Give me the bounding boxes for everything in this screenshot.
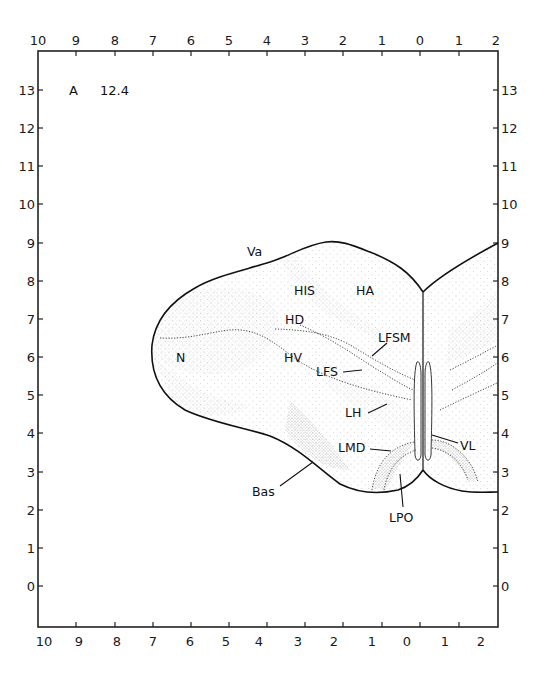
region-label-hv: HV [284,350,302,365]
brain-section: Va HIS HA HD HV N LFSM LFS LH LMD VL Bas… [140,230,500,525]
right-tick-label: 4 [501,426,509,441]
bottom-tick-label: 5 [222,634,230,649]
left-tick-label: 9 [27,236,35,251]
left-tick-label: 0 [27,579,35,594]
region-label-lh: LH [345,405,361,420]
right-tick-label: 3 [501,465,509,480]
bottom-tick-label: 9 [75,634,83,649]
bottom-tick-label: 0 [403,634,411,649]
right-tick-label: 10 [501,197,518,212]
bottom-tick-label: 4 [255,634,263,649]
region-label-lfs: LFS [316,364,338,379]
region-label-va: Va [247,244,262,259]
region-label-hd: HD [285,312,304,327]
right-tick-label: 13 [501,83,518,98]
bottom-tick-label: 1 [441,634,449,649]
region-label-n: N [176,350,185,365]
plate-label: A 12.4 [69,83,129,98]
bottom-tick-label: 2 [477,634,485,649]
right-tick-label: 12 [501,121,518,136]
region-label-lmd: LMD [338,440,365,455]
section-letter: A [69,83,78,98]
top-tick-label: 3 [301,33,309,48]
top-tick-label: 6 [187,33,195,48]
left-tick-label: 12 [18,121,35,136]
region-label-ha: HA [356,283,374,298]
right-tick-label: 0 [501,579,509,594]
left-tick-label: 3 [27,465,35,480]
bottom-tick-label: 3 [294,634,302,649]
left-tick-label: 5 [27,388,35,403]
top-tick-label: 5 [225,33,233,48]
left-tick-label: 6 [27,350,35,365]
left-tick-label: 10 [18,197,35,212]
top-tick-label: 9 [72,33,80,48]
region-label-his: HIS [294,283,315,298]
right-tick-label: 1 [501,541,509,556]
left-tick-label: 7 [27,312,35,327]
right-tick-label: 7 [501,312,509,327]
bottom-tick-label: 10 [36,634,53,649]
section-value: 12.4 [100,83,129,98]
region-label-lpo: LPO [389,510,414,525]
top-tick-label: 10 [30,33,47,48]
left-axis: 13 12 11 10 9 8 7 6 5 4 3 2 1 0 [18,83,43,594]
right-tick-label: 8 [501,274,509,289]
left-hemisphere-stipple [140,230,430,500]
region-label-vl: VL [460,438,476,453]
top-tick-label: 2 [492,33,500,48]
left-tick-label: 1 [27,541,35,556]
bottom-axis: 10 9 8 7 6 5 4 3 2 1 0 1 2 [36,622,485,649]
left-tick-label: 4 [27,426,35,441]
left-tick-label: 2 [27,503,35,518]
bottom-tick-label: 8 [113,634,121,649]
bottom-tick-label: 1 [368,634,376,649]
left-tick-label: 13 [18,83,35,98]
right-tick-label: 11 [501,159,518,174]
bottom-tick-label: 6 [186,634,194,649]
top-tick-label: 2 [339,33,347,48]
left-tick-label: 8 [27,274,35,289]
leader-bas [280,462,313,486]
left-tick-label: 11 [18,159,35,174]
right-hemisphere-stipple [420,240,500,500]
right-tick-label: 6 [501,350,509,365]
right-tick-label: 2 [501,503,509,518]
bottom-tick-label: 7 [149,634,157,649]
top-tick-label: 0 [416,33,424,48]
top-tick-label: 8 [111,33,119,48]
region-label-bas: Bas [252,484,275,499]
top-tick-label: 4 [263,33,271,48]
region-label-lfsm: LFSM [378,330,411,345]
bottom-tick-label: 2 [330,634,338,649]
right-tick-label: 9 [501,236,509,251]
right-tick-label: 5 [501,388,509,403]
top-tick-label: 1 [455,33,463,48]
top-tick-label: 7 [149,33,157,48]
stereotaxic-atlas-plate: 10 9 8 7 6 5 4 3 2 1 0 1 2 10 9 8 7 6 5 … [0,0,544,676]
top-tick-label: 1 [378,33,386,48]
top-axis: 10 9 8 7 6 5 4 3 2 1 0 1 2 [30,33,500,56]
